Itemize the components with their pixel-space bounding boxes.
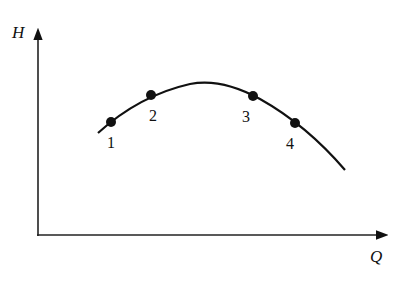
point-1-marker: [106, 117, 116, 127]
point-2-label: 2: [149, 107, 157, 124]
x-axis-label: Q: [370, 247, 382, 266]
operating-points: 1234: [106, 90, 300, 152]
point-3-marker: [248, 91, 258, 101]
point-3-label: 3: [242, 108, 250, 125]
point-2-marker: [146, 90, 156, 100]
pump-curve-diagram: H Q 1234: [0, 0, 402, 292]
point-1-label: 1: [107, 134, 115, 151]
point-4-label: 4: [286, 135, 294, 152]
h-q-curve: [98, 83, 345, 170]
y-axis-label: H: [11, 23, 26, 42]
point-4-marker: [290, 118, 300, 128]
